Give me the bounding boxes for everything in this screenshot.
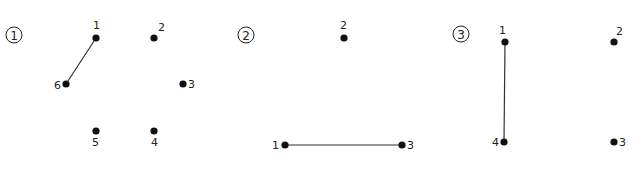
- segment-p1-1-6: [66, 38, 96, 84]
- dot-p2-3: [398, 141, 405, 148]
- panel-3: 3: [453, 26, 469, 42]
- dot-p1-4: [150, 127, 157, 134]
- dot-p3-3: [610, 138, 617, 145]
- panel-3-marker-number: 3: [457, 28, 465, 42]
- points-layer: 1234561231234: [54, 19, 626, 152]
- dot-p1-1: [92, 34, 99, 41]
- panel-2-marker-number: 2: [242, 29, 250, 43]
- dot-p3-2: [610, 38, 617, 45]
- dot-label-p1-3: 3: [188, 78, 195, 91]
- panel-2: 2: [238, 27, 254, 43]
- dot-label-p2-1: 1: [272, 139, 279, 152]
- dot-label-p2-3: 3: [407, 139, 414, 152]
- dot-p1-2: [150, 34, 157, 41]
- dot-p2-2: [340, 34, 347, 41]
- panel-1-marker-number: 1: [10, 29, 18, 43]
- dot-p1-6: [62, 80, 69, 87]
- dot-label-p2-2: 2: [340, 19, 347, 32]
- dot-label-p3-3: 3: [619, 136, 626, 149]
- panel-1: 1: [6, 27, 22, 43]
- dot-p2-1: [281, 141, 288, 148]
- dot-label-p1-6: 6: [54, 79, 61, 92]
- dot-label-p3-4: 4: [492, 136, 499, 149]
- dot-label-p3-2: 2: [616, 25, 623, 38]
- dot-label-p1-2: 2: [158, 21, 165, 34]
- dot-label-p3-1: 1: [499, 24, 506, 37]
- dot-p3-1: [501, 38, 508, 45]
- dot-label-p1-5: 5: [92, 136, 99, 149]
- dot-label-p1-1: 1: [93, 19, 100, 32]
- segment-p3-1-4: [504, 42, 505, 142]
- dot-diagram-canvas: 1 2 3 1234561231234: [0, 0, 642, 196]
- dot-label-p1-4: 4: [151, 136, 158, 149]
- dot-p1-5: [92, 127, 99, 134]
- segments-layer: [66, 38, 505, 145]
- dot-p3-4: [500, 138, 507, 145]
- dot-p1-3: [179, 80, 186, 87]
